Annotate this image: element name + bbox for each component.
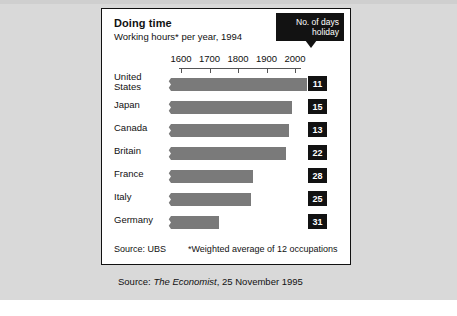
footnote: *Weighted average of 12 occupations: [188, 244, 337, 254]
hours-bar: [166, 216, 219, 229]
x-axis-line: [179, 68, 301, 69]
plate-top-edge: [0, 0, 457, 4]
bar-rows: United States11Japan15Canada13Britain22F…: [102, 75, 352, 236]
figure-root: Doing time Working hours* per year, 1994…: [0, 0, 457, 316]
axis-break-notch-icon: [166, 124, 171, 137]
country-label: United States: [114, 72, 141, 92]
hours-bar: [166, 124, 289, 137]
outer-source-prefix: Source:: [118, 276, 153, 287]
country-label: Japan: [114, 100, 140, 110]
x-axis-tick-labels: 16001700180019002000: [102, 53, 352, 67]
bar-row: Britain22: [102, 144, 352, 167]
x-axis-tick-label: 1700: [199, 53, 220, 64]
country-label: Italy: [114, 192, 131, 202]
holiday-days-badge: 31: [308, 214, 327, 229]
bar-row: Germany31: [102, 213, 352, 236]
country-label: France: [114, 169, 144, 179]
bar-row: France28: [102, 167, 352, 190]
hours-bar: [166, 170, 253, 183]
chart-panel-inner: Doing time Working hours* per year, 1994…: [102, 9, 350, 264]
bar-row: Italy25: [102, 190, 352, 213]
source-ubs: Source: UBS: [114, 244, 166, 254]
axis-break-notch-icon: [166, 78, 171, 91]
outer-source-publication: The Economist: [153, 276, 216, 287]
x-axis-tick-label: 2000: [284, 53, 305, 64]
axis-break-notch-icon: [166, 147, 171, 160]
outer-source-suffix: , 25 November 1995: [217, 276, 303, 287]
x-axis-tick-mark: [295, 69, 296, 73]
hours-bar: [166, 193, 251, 206]
x-axis-tick-label: 1600: [170, 53, 191, 64]
holiday-days-badge: 22: [308, 145, 327, 160]
chart-title: Doing time: [114, 17, 172, 29]
x-axis-tick-label: 1900: [256, 53, 277, 64]
holiday-days-badge: 28: [308, 168, 327, 183]
x-axis-tick-label: 1800: [227, 53, 248, 64]
bar-row: Canada13: [102, 121, 352, 144]
holiday-days-badge: 15: [308, 99, 327, 114]
x-axis-tick-mark: [238, 69, 239, 73]
axis-break-notch-icon: [166, 216, 171, 229]
outer-source-line: Source: The Economist, 25 November 1995: [118, 276, 303, 287]
holiday-callout-line1: No. of days: [281, 17, 339, 27]
holiday-days-badge: 11: [308, 76, 327, 91]
x-axis-tick-mark: [181, 69, 182, 73]
country-label: Canada: [114, 123, 147, 133]
axis-break-notch-icon: [166, 193, 171, 206]
bar-row: Japan15: [102, 98, 352, 121]
holiday-days-badge: 13: [308, 122, 327, 137]
country-label: Britain: [114, 146, 141, 156]
chart-panel: Doing time Working hours* per year, 1994…: [101, 8, 351, 265]
country-label: Germany: [114, 215, 153, 225]
hours-bar: [166, 147, 286, 160]
holiday-callout: No. of days holiday: [276, 13, 344, 41]
holiday-callout-pointer-icon: [305, 40, 317, 48]
hours-bar: [166, 101, 292, 114]
x-axis-tick-mark: [210, 69, 211, 73]
holiday-days-badge: 25: [308, 191, 327, 206]
axis-break-notch-icon: [166, 170, 171, 183]
bar-row: United States11: [102, 75, 352, 98]
hours-bar: [166, 78, 307, 91]
panel-footer: Source: UBS *Weighted average of 12 occu…: [114, 244, 342, 254]
axis-break-notch-icon: [166, 101, 171, 114]
chart-subtitle: Working hours* per year, 1994: [114, 31, 242, 42]
x-axis-tick-mark: [267, 69, 268, 73]
plot-area: 16001700180019002000 United States11Japa…: [102, 53, 352, 233]
holiday-callout-line2: holiday: [281, 27, 339, 37]
